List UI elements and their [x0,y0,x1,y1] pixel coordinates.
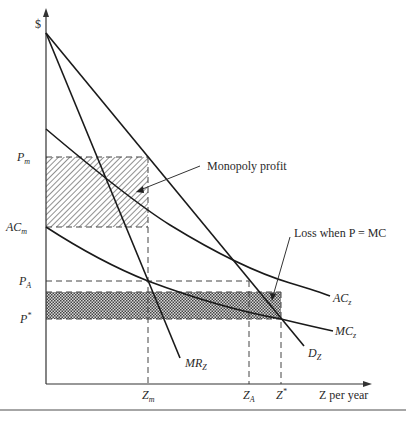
label-ac: ACz [332,291,352,307]
monopoly-profit-annotation: Monopoly profit [207,159,287,173]
tick-acm: ACm [5,220,27,236]
y-axis-label: $ [35,17,41,31]
x-axis-label: Z per year [319,388,368,402]
tick-pm: Pm [16,150,30,166]
monopoly-regulation-diagram: $ Pm ACm PA P* Zm ZA Z* Z per year ACz M… [0,0,406,423]
tick-za: ZA [243,388,255,404]
monopoly-profit-region [46,157,148,227]
tick-zm: Zm [142,388,155,404]
label-mc: MCz [334,324,357,340]
tick-pstar: P* [19,311,31,326]
x-axis-arrow-icon [363,381,372,387]
loss-region [46,292,281,319]
label-d: DZ [307,346,322,362]
loss-pointer [273,237,290,296]
y-axis-arrow-icon [43,8,49,17]
label-mr: MRZ [184,356,207,372]
loss-annotation: Loss when P = MC [294,226,386,240]
tick-zstar: Z* [276,387,287,402]
monopoly-profit-pointer [140,166,200,190]
tick-pa: PA [18,274,31,290]
